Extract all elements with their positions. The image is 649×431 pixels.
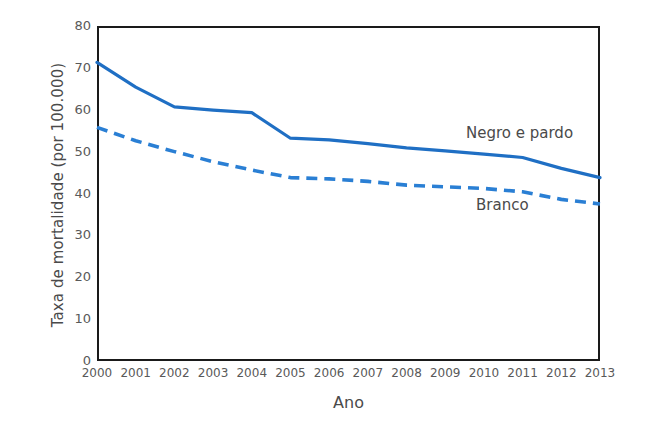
- y-axis-tick-label: 40: [61, 187, 91, 200]
- x-axis-title: Ano: [97, 393, 600, 412]
- x-axis-tick-label: 2011: [501, 366, 545, 380]
- series-label-negro-e-pardo: Negro e pardo: [466, 124, 573, 142]
- x-axis-tick-label: 2001: [114, 366, 158, 380]
- x-axis-tick-label: 2002: [152, 366, 196, 380]
- x-axis-tick-label: 2013: [578, 366, 622, 380]
- y-axis-tick-label: 10: [61, 312, 91, 325]
- x-axis-tick-label: 2006: [307, 366, 351, 380]
- x-axis-tick-label: 2004: [230, 366, 274, 380]
- x-axis-tick-label: 2008: [385, 366, 429, 380]
- x-axis-tick-label: 2012: [539, 366, 583, 380]
- series-label-branco: Branco: [476, 196, 529, 214]
- x-axis-tick-label: 2007: [346, 366, 390, 380]
- x-axis-tick-label: 2009: [423, 366, 467, 380]
- x-axis-tick-label: 2005: [268, 366, 312, 380]
- y-axis-tick-label: 60: [61, 103, 91, 116]
- y-axis-tick-label: 50: [61, 145, 91, 158]
- mortality-rate-line-chart: Taxa de mortalidade (por 100.000) 010203…: [0, 0, 649, 431]
- y-axis-tick-label: 30: [61, 228, 91, 241]
- y-axis-tick-label: 70: [61, 61, 91, 74]
- x-axis-tick-label: 2000: [75, 366, 119, 380]
- y-axis-tick-label: 20: [61, 270, 91, 283]
- y-axis-tick-label: 80: [61, 19, 91, 32]
- plot-area-frame: [97, 26, 600, 361]
- x-axis-tick-label: 2010: [462, 366, 506, 380]
- x-axis-tick-label: 2003: [191, 366, 235, 380]
